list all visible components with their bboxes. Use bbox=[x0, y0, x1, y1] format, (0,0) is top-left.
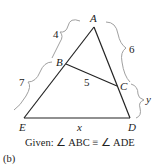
figure-caption: (b) bbox=[3, 153, 16, 165]
given-statement: Given: ∠ ABC ≡ ∠ ADE bbox=[25, 137, 135, 148]
vertex-label-C: C bbox=[120, 80, 128, 92]
vertex-label-B: B bbox=[56, 56, 63, 68]
vertex-label-E: E bbox=[18, 121, 26, 133]
length-label-BC: 5 bbox=[84, 76, 90, 88]
length-label-CD: y bbox=[145, 93, 151, 105]
length-label-ED: x bbox=[76, 121, 82, 133]
length-label-BE: 7 bbox=[19, 76, 25, 88]
brace-AC bbox=[106, 22, 130, 82]
diagram-canvas: A B C D E 4 7 5 6 y x Given: ∠ ABC ≡ ∠ A… bbox=[0, 0, 162, 167]
vertex-label-A: A bbox=[89, 12, 97, 24]
length-label-AB: 4 bbox=[53, 28, 59, 40]
vertex-label-D: D bbox=[127, 121, 136, 133]
brace-CD bbox=[131, 84, 144, 118]
length-label-AC: 6 bbox=[129, 43, 135, 55]
side-AE bbox=[24, 27, 94, 118]
